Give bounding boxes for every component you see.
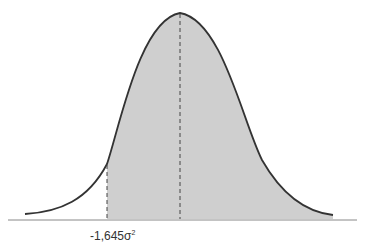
shaded-region [107, 13, 333, 219]
bell-curve-diagram [0, 0, 365, 250]
critical-value-label: -1,645σ2 [90, 229, 135, 243]
